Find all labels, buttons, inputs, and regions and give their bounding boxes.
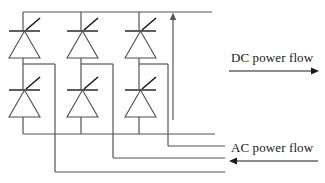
t1-triangle: [9, 31, 40, 58]
ac-power-flow-label: AC power flow: [231, 140, 313, 156]
ac-power-flow-arrow: [229, 158, 318, 165]
dc-current-arrow: [170, 13, 176, 121]
t6-gate-lead: [84, 77, 98, 89]
dc-power-flow-label: DC power flow: [231, 50, 313, 66]
ac-flow-arrowhead: [229, 158, 237, 165]
thyristor-t1: [9, 18, 40, 58]
t2-gate-lead: [142, 77, 156, 89]
t5-gate-lead: [142, 18, 156, 30]
t1-gate-lead: [26, 18, 40, 30]
thyristor-t6: [67, 77, 98, 117]
t3-triangle: [67, 31, 98, 58]
dc-current-arrowhead: [170, 13, 176, 21]
dc-power-flow-arrow: [229, 68, 319, 75]
t6-triangle: [67, 90, 98, 117]
t3-gate-lead: [84, 18, 98, 30]
thyristor-t2: [125, 77, 156, 117]
dc-flow-arrowhead: [311, 68, 319, 75]
t5-triangle: [125, 31, 156, 58]
thyristor-t3: [67, 18, 98, 58]
t2-triangle: [125, 90, 156, 117]
thyristor-bridge-diagram: DC power flow AC power flow: [0, 0, 325, 183]
t4-gate-lead: [26, 77, 40, 89]
thyristor-t4: [9, 77, 40, 117]
thyristor-t5: [125, 18, 156, 58]
t4-triangle: [9, 90, 40, 117]
